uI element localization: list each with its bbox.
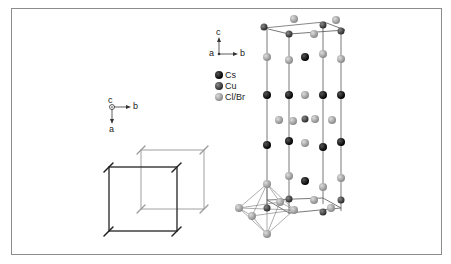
crystal-structure-diagram bbox=[0, 0, 451, 264]
legend-label-clbr: Cl/Br bbox=[225, 93, 245, 102]
atoms bbox=[235, 15, 345, 238]
legend-label-cu: Cu bbox=[225, 82, 237, 91]
axis-label-a-left: a bbox=[109, 125, 114, 134]
axis-label-b-top: b bbox=[240, 49, 245, 58]
axis-label-b-left: b bbox=[133, 102, 138, 111]
axes-indicator-top bbox=[217, 37, 238, 56]
unit-cell-left bbox=[104, 146, 208, 236]
legend-markers bbox=[215, 71, 223, 101]
axis-label-c-left: c bbox=[108, 96, 113, 105]
axis-label-a-top: a bbox=[209, 49, 214, 58]
axis-label-c-top: c bbox=[216, 28, 221, 37]
legend-label-cs: Cs bbox=[225, 71, 236, 80]
axes-indicator-left bbox=[110, 105, 132, 125]
